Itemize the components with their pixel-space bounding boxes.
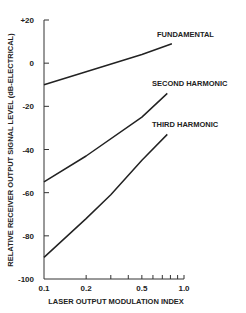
third-harmonic-line	[44, 134, 167, 257]
axes	[44, 20, 184, 279]
third-harmonic-label: THIRD HARMONIC	[152, 120, 219, 129]
y-tick-label: -20	[22, 102, 34, 111]
series-labels: FUNDAMENTALSECOND HARMONICTHIRD HARMONIC	[152, 30, 228, 129]
second-harmonic-label: SECOND HARMONIC	[152, 79, 228, 88]
x-tick-label: 0.2	[81, 284, 93, 293]
x-tick-label: 0.5	[136, 284, 148, 293]
y-tick-label: -80	[22, 232, 34, 241]
y-tick-label: -40	[22, 146, 34, 155]
x-tick-label: 1.0	[178, 284, 190, 293]
y-tick-label: 0	[30, 59, 35, 68]
y-axis-title: RELATIVE RECEIVER OUTPUT SIGNAL LEVEL (d…	[6, 33, 15, 267]
fundamental-label: FUNDAMENTAL	[157, 30, 214, 39]
second-harmonic-line	[44, 93, 167, 181]
chart: +200-20-40-60-80-1000.10.20.51.0 FUNDAME…	[0, 0, 246, 313]
y-tick-label: -60	[22, 189, 34, 198]
x-axis-title: LASER OUTPUT MODULATION INDEX	[48, 297, 184, 306]
series-lines	[44, 44, 172, 258]
x-tick-label: 0.1	[38, 284, 50, 293]
y-tick-label: -100	[18, 275, 35, 284]
y-tick-label: +20	[20, 16, 34, 25]
